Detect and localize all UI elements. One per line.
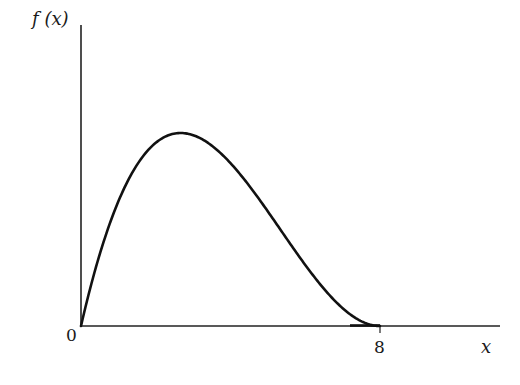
chart-plot-area xyxy=(0,0,520,385)
density-curve xyxy=(81,133,380,326)
x-axis-label: x xyxy=(481,336,491,357)
x-tick-label-8: 8 xyxy=(374,337,385,357)
y-axis-label: f (x) xyxy=(32,8,69,29)
origin-label: 0 xyxy=(66,325,77,345)
